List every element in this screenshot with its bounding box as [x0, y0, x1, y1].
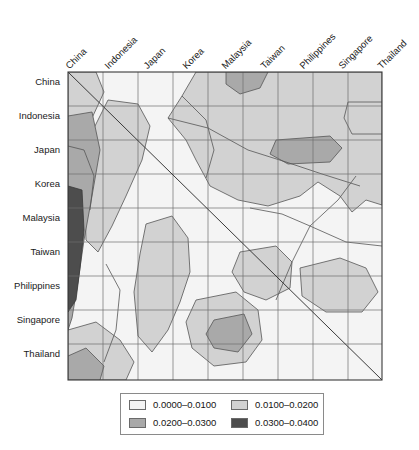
legend-swatch-1: [129, 400, 146, 410]
legend-label-4: 0.0300–0.0400: [255, 417, 318, 428]
legend-entry-1: 0.0000–0.0100: [129, 399, 216, 410]
legend-label-1: 0.0000–0.0100: [153, 399, 216, 410]
legend-swatch-3: [129, 418, 146, 428]
contour-plot-area: [0, 0, 419, 450]
contour-band-2: [344, 102, 382, 134]
contour-fill-layer: [68, 72, 382, 380]
legend-entry-3: 0.0200–0.0300: [129, 417, 216, 428]
chart-root: China Indonesia Japan Korea Malaysia Tai…: [0, 0, 419, 450]
legend-entry-2: 0.0100–0.0200: [231, 399, 318, 410]
legend-label-3: 0.0200–0.0300: [153, 417, 216, 428]
legend-swatch-4: [231, 418, 248, 428]
legend-box: 0.0000–0.0100 0.0100–0.0200 0.0200–0.030…: [120, 393, 324, 435]
legend-swatch-2: [231, 400, 248, 410]
legend-entry-4: 0.0300–0.0400: [231, 417, 318, 428]
legend-label-2: 0.0100–0.0200: [255, 399, 318, 410]
